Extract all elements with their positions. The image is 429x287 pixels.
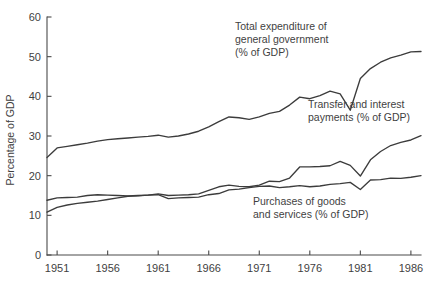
x-tick-label: 1966 [196,262,220,274]
annotation-total-expenditure-line-2: general government [235,33,328,45]
y-tick-label: 60 [29,11,41,23]
series-line-1 [47,136,421,213]
series-line-2 [47,176,421,201]
chart-container: Percentage of GDP 0102030405060 19511956… [0,0,429,287]
x-tick-label: 1951 [45,262,69,274]
annotation-purchases-line-2: and services (% of GDP) [253,208,369,220]
y-tick-label: 50 [29,51,41,63]
y-tick-label: 40 [29,90,41,102]
y-axis-title: Percentage of GDP [4,94,16,185]
annotation-total-expenditure-line-3: (% of GDP) [235,46,289,58]
y-tick-label: 20 [29,170,41,182]
annotation-total-expenditure: Total expenditure of general government … [235,20,328,58]
annotation-total-expenditure-line-1: Total expenditure of [235,20,327,32]
x-tick-label: 1981 [348,262,372,274]
annotation-transfer-interest: Transfer and interest payments (% of GDP… [308,98,410,123]
annotation-transfer-interest-line-1: Transfer and interest [308,98,405,110]
annotation-transfer-interest-line-2: payments (% of GDP) [308,111,410,123]
series-layer [47,52,421,213]
y-axis-title-group: Percentage of GDP [4,94,16,185]
x-tick-label: 1961 [146,262,170,274]
x-tick-label: 1956 [95,262,119,274]
y-tick-label: 0 [35,249,41,261]
line-chart: Percentage of GDP 0102030405060 19511956… [0,0,429,287]
y-axis-ticks: 0102030405060 [29,11,52,261]
y-tick-label: 30 [29,130,41,142]
x-tick-label: 1971 [247,262,271,274]
x-tick-label: 1986 [399,262,423,274]
x-axis-ticks: 19511956196119661971197619811986 [45,251,423,275]
annotation-purchases-line-1: Purchases of goods [253,195,346,207]
y-tick-label: 10 [29,209,41,221]
annotation-purchases: Purchases of goods and services (% of GD… [253,195,369,220]
x-tick-label: 1976 [298,262,322,274]
